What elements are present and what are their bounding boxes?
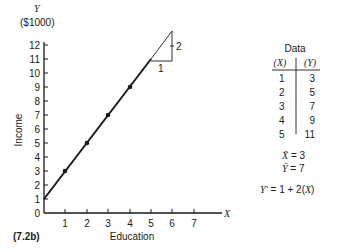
svg-text:11: 11 [305,129,316,140]
svg-text:1: 1 [34,194,40,205]
svg-text:7: 7 [191,218,197,229]
svg-text:6: 6 [169,218,175,229]
svg-text:3: 3 [34,166,40,177]
data-table-title: Data [284,43,306,54]
svg-text:5: 5 [279,129,285,140]
slope-run-label: 1 [158,63,164,74]
svg-text:10: 10 [29,68,41,79]
svg-text:9: 9 [309,115,315,126]
svg-text:5: 5 [34,138,40,149]
regression-line [44,59,151,199]
data-table: Data (X) (Y) 13 25 37 49 511 [272,43,320,140]
x-axis-symbol: X [223,208,231,219]
table-header-y: (Y) [304,57,317,69]
svg-text:7: 7 [34,110,40,121]
y-mean: Ȳ = 7 [282,163,305,174]
svg-text:3: 3 [309,73,315,84]
svg-text:8: 8 [34,96,40,107]
svg-text:3: 3 [279,101,285,112]
y-units-label: ($1000) [20,17,54,28]
svg-text:0: 0 [34,208,40,219]
chart-canvas: 0 1 2 3 4 5 6 7 8 9 10 11 12 1 2 3 4 5 6… [0,0,344,252]
svg-text:3: 3 [105,218,111,229]
summary-stats: X̄ = 3 Ȳ = 7 Y′ = 1 + 2(X) [260,150,314,195]
svg-text:7: 7 [309,101,315,112]
svg-text:4: 4 [34,152,40,163]
svg-text:2: 2 [279,87,285,98]
svg-text:1: 1 [279,73,285,84]
regression-equation: Y′ = 1 + 2(X) [260,184,314,195]
x-mean: X̄ = 3 [281,150,306,161]
svg-text:4: 4 [127,218,133,229]
y-tick-labels: 0 1 2 3 4 5 6 7 8 9 10 11 12 [29,40,41,219]
x-tick-labels: 1 2 3 4 5 6 7 [62,218,197,229]
svg-text:4: 4 [279,115,285,126]
y-axis-symbol: Y [34,3,41,14]
table-rows: 13 25 37 49 511 [279,73,315,140]
slope-triangle [151,31,174,61]
y-axis-title: Income [13,113,24,146]
figure-label: (7.2b) [13,231,40,242]
svg-text:6: 6 [34,124,40,135]
svg-text:5: 5 [309,87,315,98]
svg-text:5: 5 [148,218,154,229]
table-header-x: (X) [274,57,287,69]
svg-text:9: 9 [34,82,40,93]
svg-text:1: 1 [62,218,68,229]
slope-rise-label: 2 [176,41,182,52]
svg-text:12: 12 [29,40,41,51]
x-axis-title: Education [110,231,154,242]
svg-text:2: 2 [34,180,40,191]
svg-text:2: 2 [84,218,90,229]
svg-text:11: 11 [30,54,41,65]
